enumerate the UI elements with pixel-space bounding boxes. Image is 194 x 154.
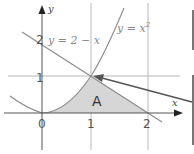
y-axis-arrow-icon — [39, 5, 46, 14]
parabola-equation-exponent: 2 — [145, 21, 151, 29]
diagram-canvas: y x 2 1 0 1 2 y = 2 − x y = x2 A — [0, 0, 194, 154]
line-equation-label: y = 2 − x — [47, 34, 101, 47]
tick-label-x2: 2 — [143, 117, 151, 131]
x-axis-arrow-icon — [174, 110, 183, 117]
y-axis-label: y — [47, 3, 54, 14]
x-axis-label: x — [172, 97, 178, 108]
tick-label-y2: 2 — [36, 33, 44, 47]
parabola-equation-main: y = x — [116, 22, 146, 35]
tick-label-origin: 0 — [38, 117, 46, 131]
parabola-equation-label: y = x2 — [116, 21, 151, 35]
tick-label-y1: 1 — [36, 71, 44, 85]
region-a-label: A — [92, 93, 102, 109]
tick-label-x1: 1 — [87, 117, 95, 131]
